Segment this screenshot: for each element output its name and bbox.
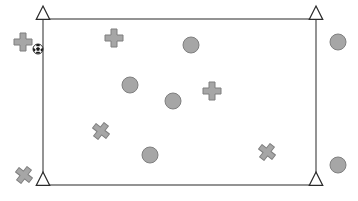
anchor-bottom-left[interactable] <box>36 172 50 185</box>
circle-marker-4[interactable] <box>165 93 181 109</box>
circle-marker-1[interactable] <box>183 37 199 53</box>
anchor-triangle-icon <box>36 172 50 185</box>
circle-marker-group <box>122 34 346 173</box>
circle-marker-6[interactable] <box>330 157 346 173</box>
soccer-ball-icon[interactable] <box>32 44 43 54</box>
plus-icon <box>255 140 279 164</box>
anchor-triangle-icon <box>36 6 50 19</box>
cross-marker-5[interactable] <box>255 140 279 164</box>
plus-icon <box>12 163 36 187</box>
anchor-triangle-icon <box>309 172 323 185</box>
cross-marker-2[interactable] <box>14 33 32 51</box>
anchor-top-left[interactable] <box>36 6 50 19</box>
circle-marker-5[interactable] <box>142 147 158 163</box>
anchor-top-right[interactable] <box>309 6 323 19</box>
plus-icon <box>89 119 113 143</box>
cross-marker-3[interactable] <box>203 82 221 100</box>
plus-icon <box>203 82 221 100</box>
circle-marker-3[interactable] <box>122 77 138 93</box>
cross-marker-1[interactable] <box>105 29 123 47</box>
cross-marker-6[interactable] <box>12 163 36 187</box>
anchor-bottom-right[interactable] <box>309 172 323 185</box>
plus-icon <box>105 29 123 47</box>
scene-svg <box>0 0 358 201</box>
cross-marker-4[interactable] <box>89 119 113 143</box>
anchor-triangle-icon <box>309 6 323 19</box>
diagram-canvas <box>0 0 358 201</box>
cross-marker-group <box>12 29 279 187</box>
plus-icon <box>14 33 32 51</box>
circle-marker-2[interactable] <box>330 34 346 50</box>
